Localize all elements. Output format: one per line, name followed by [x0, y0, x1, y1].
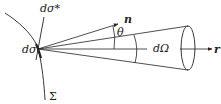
label-dsigma-star: dσ* [40, 3, 60, 14]
label-solid-angle: dΩ [153, 43, 169, 54]
label-normal-n: n [124, 14, 132, 25]
label-direction-r: r [214, 44, 220, 55]
label-theta: θ [117, 27, 124, 38]
normal-vector-arrow [38, 24, 118, 49]
label-dsigma: dσ [22, 44, 37, 55]
label-sigma-surface: Σ [49, 91, 57, 102]
surface-sigma-curve [5, 13, 45, 100]
cone-end-ellipse [181, 26, 195, 70]
